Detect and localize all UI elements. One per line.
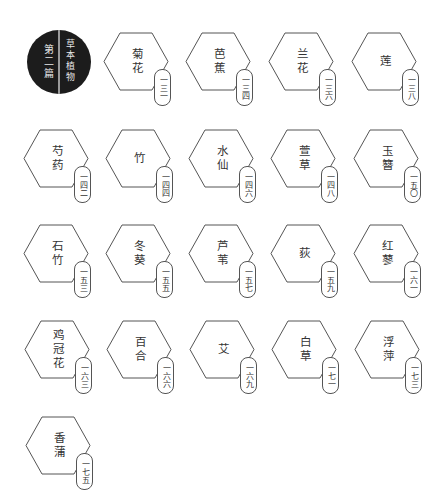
page-number: 一六六 [162,364,170,388]
page-number: 一三八 [407,76,415,100]
seal-divider [58,30,60,94]
entry-name: 石竹 [50,240,62,268]
entry-name: 香蒲 [52,432,64,460]
toc-entry[interactable]: 红蓼 一六一 [353,224,421,302]
page-number-badge[interactable]: 一五三 [74,261,91,298]
toc-entry[interactable]: 艾 一六九 [189,320,257,398]
page-number-badge[interactable]: 一六三 [75,357,92,394]
page-number: 一六九 [245,364,253,388]
chapter-seal: 第二篇 草本植物 [27,30,91,94]
entry-name: 荻 [297,247,309,261]
page-number: 一四六 [244,173,252,197]
page-number: 一四二 [79,173,87,197]
page-number: 一五九 [326,268,334,292]
page-number-badge[interactable]: 一三一 [154,69,171,106]
page-number: 一六一 [409,268,417,292]
page-number-badge[interactable]: 一六六 [157,357,174,394]
toc-entry[interactable]: 竹 一四四 [105,129,173,207]
page-number: 一四八 [326,173,334,197]
toc-entry[interactable]: 菊花 一三一 [103,32,171,110]
entry-name: 红蓼 [380,240,392,268]
page-number-badge[interactable]: 一三八 [402,69,419,106]
toc-entry[interactable]: 萱草 一四八 [270,129,338,207]
page-number: 一四四 [161,173,169,197]
entry-name: 莲 [378,55,390,69]
toc-entry[interactable]: 芍药 一四二 [23,129,91,207]
entry-name: 浮萍 [381,336,393,364]
toc-entry[interactable]: 玉簪 一五〇 [353,129,421,207]
chapter-label: 第二篇 [42,44,52,80]
toc-entry[interactable]: 浮萍 一七三 [354,320,422,398]
page-number: 一五五 [161,268,169,292]
entry-name: 白草 [298,336,310,364]
entry-name: 水仙 [215,145,227,173]
page-number: 一七五 [81,460,89,484]
entry-name: 冬葵 [132,240,144,268]
entry-name: 芦苇 [215,240,227,268]
page-number: 一七一 [327,364,335,388]
page-number-badge[interactable]: 一四六 [239,166,256,203]
toc-entry[interactable]: 荻 一五九 [270,224,338,302]
entry-name: 兰花 [295,48,307,76]
page-number: 一五〇 [409,173,417,197]
page-number-badge[interactable]: 一五〇 [404,166,421,203]
entry-name: 菊花 [130,48,142,76]
page-number: 一七三 [410,364,418,388]
page-number-badge[interactable]: 一四二 [74,166,91,203]
page-number-badge[interactable]: 一三四 [236,69,253,106]
page-number: 一五七 [244,268,252,292]
toc-entry[interactable]: 莲 一三八 [351,32,419,110]
toc-entry[interactable]: 鸡冠花 一六三 [24,320,92,398]
page-number-badge[interactable]: 一三六 [319,69,336,106]
page-number-badge[interactable]: 一六九 [240,357,257,394]
page-number: 一三六 [324,76,332,100]
entry-name: 芭蕉 [212,48,224,76]
toc-entry[interactable]: 水仙 一四六 [188,129,256,207]
page-number-badge[interactable]: 一七五 [76,453,93,490]
entry-name: 百合 [133,336,145,364]
entry-name: 鸡冠花 [51,329,63,371]
page-number: 一三四 [241,76,249,100]
toc-entry[interactable]: 石竹 一五三 [23,224,91,302]
toc-entry[interactable]: 百合 一六六 [106,320,174,398]
page-number-badge[interactable]: 一五七 [239,261,256,298]
toc-entry[interactable]: 冬葵 一五五 [105,224,173,302]
entry-name: 芍药 [50,145,62,173]
page-number-badge[interactable]: 一六一 [404,261,421,298]
page-number-badge[interactable]: 一五九 [321,261,338,298]
page-number: 一三一 [159,76,167,100]
toc-entry[interactable]: 芭蕉 一三四 [185,32,253,110]
toc-entry[interactable]: 香蒲 一七五 [25,416,93,494]
page-number: 一六三 [80,364,88,388]
toc-entry[interactable]: 兰花 一三六 [268,32,336,110]
page-number-badge[interactable]: 一四八 [321,166,338,203]
page-number: 一五三 [79,268,87,292]
page-number-badge[interactable]: 一七三 [405,357,422,394]
page-number-badge[interactable]: 一七一 [322,357,339,394]
entry-name: 艾 [216,343,228,357]
page-number-badge[interactable]: 一四四 [156,166,173,203]
entry-name: 萱草 [297,145,309,173]
toc-entry[interactable]: 芦苇 一五七 [188,224,256,302]
toc-entry[interactable]: 白草 一七一 [271,320,339,398]
chapter-title: 草本植物 [65,39,74,83]
page-number-badge[interactable]: 一五五 [156,261,173,298]
entry-name: 玉簪 [380,145,392,173]
entry-name: 竹 [132,152,144,166]
